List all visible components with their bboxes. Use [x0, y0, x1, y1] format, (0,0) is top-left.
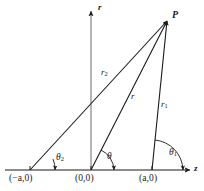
- coordinate-label-origin: (0,0): [75, 174, 94, 184]
- z-axis-label: z: [194, 164, 198, 173]
- angle-theta-label: θ: [107, 152, 112, 162]
- segment-r1-label: r1: [161, 100, 168, 110]
- segment-r: [91, 21, 167, 170]
- segment-r2-label: r2: [101, 68, 108, 78]
- angle-theta1-label: θ1: [169, 148, 177, 158]
- segment-r2-subscript: 2: [105, 70, 108, 77]
- segment-r1-subscript: 1: [165, 102, 168, 109]
- angle-theta-symbol: θ: [107, 151, 112, 161]
- angle-theta2-label: θ2: [56, 153, 64, 163]
- segment-r-symbol: r: [131, 91, 135, 101]
- angle-arc-theta2: [53, 159, 55, 170]
- figure-container: r z P r2 r r1 θ2 θ θ1 (−a,0) (0,0) (a,0): [0, 0, 204, 191]
- angle-theta2-subscript: 2: [61, 155, 64, 162]
- segment-r-label: r: [131, 92, 135, 102]
- angle-theta1-subscript: 1: [174, 150, 177, 157]
- point-p-label: P: [172, 10, 178, 20]
- segment-r2: [30, 21, 167, 170]
- coordinate-label-plus-a: (a,0): [139, 174, 157, 184]
- coordinate-label-minus-a: (−a,0): [9, 174, 33, 184]
- figure-drawing: [0, 0, 204, 191]
- r-axis-label: r: [98, 3, 102, 12]
- segment-r1: [152, 21, 167, 170]
